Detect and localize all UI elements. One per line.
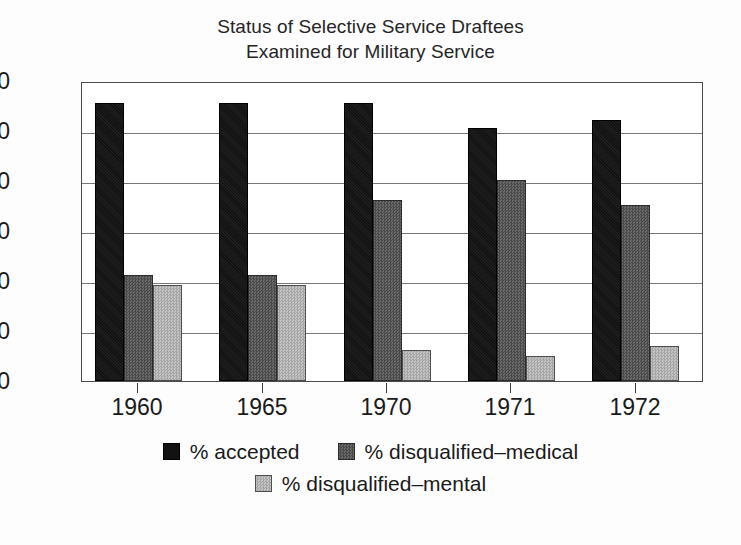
bar (124, 275, 153, 382)
chart-legend: % accepted% disqualified–medical % disqu… (0, 440, 741, 504)
bar (95, 103, 124, 381)
bar (373, 200, 402, 381)
bar (248, 275, 277, 382)
x-axis-tick-mark (510, 383, 511, 393)
x-axis-tick-label: 1972 (575, 394, 695, 420)
x-axis-tick-label: 1971 (450, 394, 570, 420)
x-axis-tick-mark (137, 383, 138, 393)
x-axis-tick-mark (386, 383, 387, 393)
y-axis-tick-label: 0 (0, 370, 10, 393)
legend-swatch-icon (338, 443, 355, 460)
plot-area (81, 82, 703, 382)
x-axis-tick-label: 1965 (202, 394, 322, 420)
y-axis-tick-label: 30 (0, 220, 10, 243)
bar (344, 103, 373, 381)
chart-title-line-1: Status of Selective Service Draftees (0, 14, 741, 39)
y-axis-tick-label: 10 (0, 320, 10, 343)
legend-item[interactable]: % disqualified–mental (255, 472, 486, 495)
legend-row-2: % disqualified–mental (0, 472, 741, 495)
chart-title: Status of Selective Service Draftees Exa… (0, 14, 741, 64)
bar (402, 350, 431, 381)
bar (497, 180, 526, 381)
y-axis-tick-label: 40 (0, 170, 10, 193)
x-axis-tick-label: 1970 (326, 394, 446, 420)
legend-swatch-icon (255, 475, 272, 492)
bar (468, 128, 497, 382)
bar (650, 346, 679, 381)
legend-item[interactable]: % accepted (163, 440, 300, 463)
legend-label: % accepted (190, 440, 300, 463)
bar (153, 285, 182, 381)
legend-swatch-icon (163, 443, 180, 460)
bar (592, 120, 621, 382)
bar (219, 103, 248, 381)
legend-item[interactable]: % disqualified–medical (338, 440, 579, 463)
bar (277, 285, 306, 381)
legend-label: % disqualified–medical (365, 440, 579, 463)
bar (621, 205, 650, 381)
y-axis-tick-label: 20 (0, 270, 10, 293)
chart-page: Status of Selective Service Draftees Exa… (0, 0, 741, 545)
x-axis-tick-label: 1960 (77, 394, 197, 420)
legend-label: % disqualified–mental (282, 472, 486, 495)
y-axis-tick-label: 60 (0, 70, 10, 93)
legend-row-1: % accepted% disqualified–medical (0, 440, 741, 463)
bar (526, 356, 555, 381)
chart-title-line-2: Examined for Military Service (0, 39, 741, 64)
x-axis-tick-mark (262, 383, 263, 393)
x-axis-tick-mark (635, 383, 636, 393)
y-axis-tick-label: 50 (0, 120, 10, 143)
